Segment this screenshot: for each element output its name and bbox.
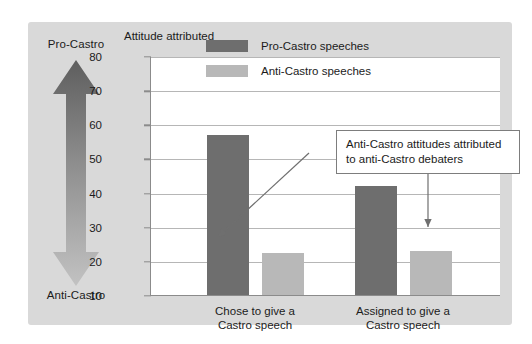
bar-pro-castro xyxy=(207,135,249,295)
y-axis-tick xyxy=(144,90,151,91)
y-axis-tick-label: 40 xyxy=(74,188,102,200)
y-axis-tick xyxy=(144,125,151,126)
legend-swatch-anti-castro xyxy=(206,65,248,77)
bar-anti-castro xyxy=(410,251,452,295)
gridline xyxy=(151,91,500,92)
y-axis-tick-label: 50 xyxy=(74,153,102,165)
category-label-line: Chose to give a xyxy=(180,304,330,318)
legend: Pro-Castro speeches Anti-Castro speeches xyxy=(206,36,426,86)
y-axis-tick xyxy=(144,56,151,57)
category-label: Assigned to give aCastro speech xyxy=(328,304,478,332)
figure-panel: Pro-Castro Anti-Castro Attitude attribut… xyxy=(28,22,512,325)
y-axis-tick-label: 20 xyxy=(74,256,102,268)
category-label-line: Assigned to give a xyxy=(328,304,478,318)
legend-label-pro-castro: Pro-Castro speeches xyxy=(261,40,369,52)
plot-area: 1020304050607080Chose to give aCastro sp… xyxy=(150,57,500,296)
y-axis-tick-label: 60 xyxy=(74,119,102,131)
gridline xyxy=(151,194,500,195)
bar-anti-castro xyxy=(262,253,304,295)
y-axis-title: Attitude attributed xyxy=(124,30,214,42)
category-label: Chose to give aCastro speech xyxy=(180,304,330,332)
y-axis-tick xyxy=(144,159,151,160)
legend-label-anti-castro: Anti-Castro speeches xyxy=(261,65,371,77)
legend-item: Pro-Castro speeches xyxy=(206,36,426,56)
annotation-line-1: Anti-Castro attitudes attributed xyxy=(346,137,511,152)
y-axis-tick xyxy=(144,295,151,296)
category-label-line: Castro speech xyxy=(328,318,478,332)
annotation-line-2: to anti-Castro debaters xyxy=(346,152,511,167)
y-axis-tick xyxy=(144,227,151,228)
y-axis-tick xyxy=(144,193,151,194)
gridline xyxy=(151,228,500,229)
category-label-line: Castro speech xyxy=(180,318,330,332)
annotation-callout: Anti-Castro attitudes attributed to anti… xyxy=(336,130,520,174)
y-axis-tick-label: 80 xyxy=(74,51,102,63)
y-axis-tick xyxy=(144,261,151,262)
legend-swatch-pro-castro xyxy=(206,40,248,52)
legend-item: Anti-Castro speeches xyxy=(206,61,426,81)
bar-pro-castro xyxy=(355,186,397,295)
gridline xyxy=(151,125,500,126)
y-axis-tick-label: 30 xyxy=(74,222,102,234)
y-axis-tick-label: 10 xyxy=(74,290,102,302)
y-axis-tick-label: 70 xyxy=(74,85,102,97)
